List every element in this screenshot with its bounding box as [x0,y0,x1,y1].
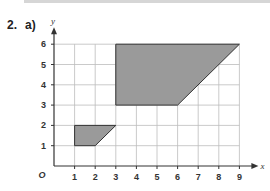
coordinate-grid-diagram: 123456789123456Oxy [0,0,270,191]
x-tick-label: 2 [93,172,98,182]
x-tick-label: 4 [134,172,139,182]
small-trapezium [75,125,116,145]
x-tick-label: 1 [72,172,77,182]
x-tick-label: 7 [196,172,201,182]
y-axis-arrow-icon [51,27,57,34]
y-tick-label: 6 [41,39,46,49]
y-tick-label: 5 [41,60,46,70]
large-trapezium [116,44,240,105]
y-tick-label: 2 [41,120,46,130]
x-axis-arrow-icon [251,163,258,169]
origin-label: O [38,170,45,180]
y-tick-label: 3 [41,100,46,110]
x-tick-label: 6 [175,172,180,182]
x-tick-label: 8 [216,172,221,182]
x-axis-label: x [259,161,264,171]
x-tick-label: 3 [113,172,118,182]
x-tick-label: 5 [154,172,159,182]
y-tick-label: 4 [41,80,46,90]
x-tick-label: 9 [237,172,242,182]
y-tick-label: 1 [41,141,46,151]
y-axis-label: y [50,16,55,26]
